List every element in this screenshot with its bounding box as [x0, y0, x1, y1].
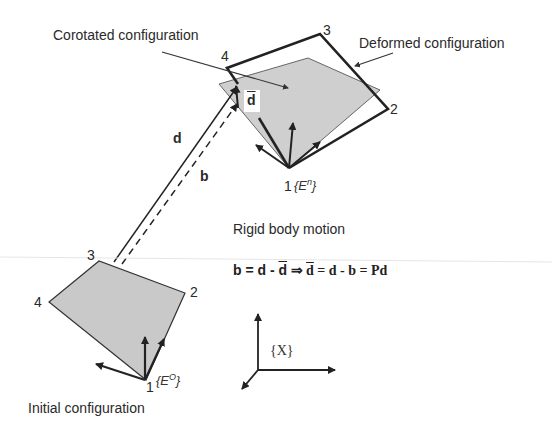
- equation-implies: ⇒: [287, 263, 306, 278]
- initial-configuration-polygon: [49, 261, 185, 380]
- global-frame-label: {X}: [270, 343, 294, 359]
- initial-node-1: 1: [146, 379, 154, 395]
- deformed-configuration-label: Deformed configuration: [359, 35, 505, 51]
- initial-configuration-label: Initial configuration: [28, 400, 145, 416]
- vector-d-label: d: [173, 130, 182, 146]
- deformed-frame-text: {E: [294, 178, 307, 193]
- initial-frame-sup: O: [169, 372, 176, 382]
- rigid-body-motion-label: Rigid body motion: [233, 221, 345, 237]
- vector-b-arrow: [122, 104, 237, 264]
- deformed-leader-line: [355, 53, 393, 66]
- initial-node-3: 3: [87, 247, 95, 263]
- equation-part1-dbar: d: [279, 262, 288, 278]
- deformed-frame-close: }: [312, 178, 316, 193]
- initial-node-2: 2: [190, 284, 198, 300]
- deformed-node-3: 3: [323, 22, 331, 38]
- rigid-motion-equation: b = d - d ⇒ d = d - b = Pd: [233, 262, 387, 279]
- equation-part2: = d - b = Pd: [314, 263, 388, 278]
- vector-d-arrow: [114, 87, 237, 262]
- initial-frame-close: }: [176, 373, 180, 388]
- deformed-node-4: 4: [221, 48, 229, 64]
- equation-part2-dbar: d: [306, 263, 314, 278]
- initial-node-4: 4: [34, 294, 42, 310]
- deformed-node-2: 2: [390, 101, 398, 117]
- deformed-frame-label: {En}: [294, 177, 316, 193]
- diagram-canvas: [0, 0, 552, 430]
- initial-frame-label: {EO}: [156, 372, 180, 388]
- initial-frame-text: {E: [156, 373, 169, 388]
- equation-part1: b = d -: [233, 262, 279, 278]
- vector-dbar-label: d: [247, 92, 256, 108]
- global-axis-out: [242, 370, 258, 389]
- corotated-configuration-label: Corotated configuration: [53, 27, 199, 43]
- deformed-node-1: 1: [284, 178, 292, 194]
- vector-b-label: b: [200, 168, 209, 184]
